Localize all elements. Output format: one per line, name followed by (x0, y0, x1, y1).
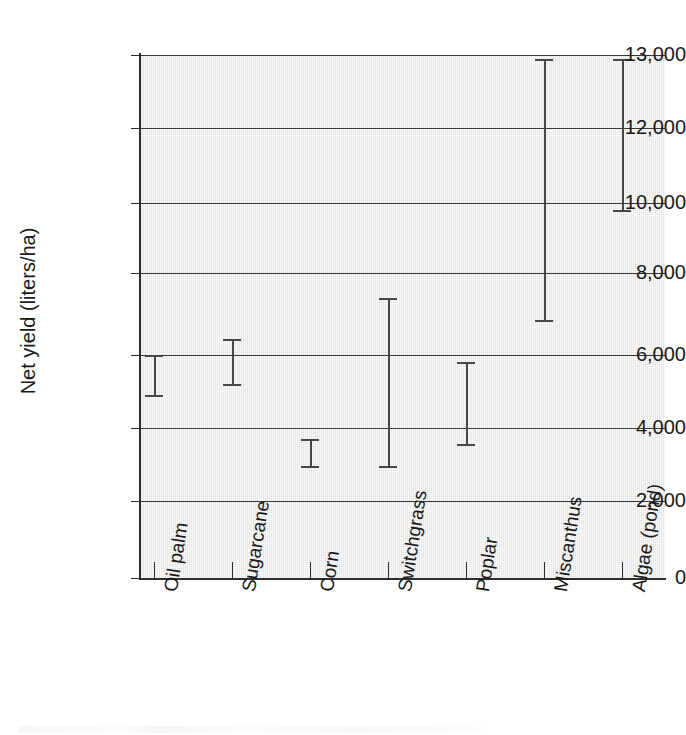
errorbar-cap-low-sugarcane (223, 384, 241, 386)
errorbar-cap-high-corn (301, 439, 319, 441)
y-tick-label-12000: 12,000 (608, 117, 686, 137)
errorbar-stem-switchgrass (388, 298, 390, 467)
errorbar-cap-high-oil-palm (145, 355, 163, 357)
errorbar-cap-high-switchgrass (379, 298, 397, 300)
errorbar-stem-corn (310, 439, 312, 466)
y-tick-6000 (131, 355, 140, 356)
y-tick-label-8000: 8,000 (608, 262, 686, 282)
errorbar-cap-low-miscanthus (535, 320, 553, 322)
y-tick-4000 (131, 428, 140, 429)
y-tick-label-4000: 4,000 (608, 417, 686, 437)
errorbar-cap-low-corn (301, 466, 319, 468)
x-tick-6 (622, 562, 623, 578)
chart-figure: 02,0004,0006,0008,00010,00012,00013,000 … (0, 0, 686, 735)
y-tick-12000 (131, 128, 140, 129)
x-tick-1 (232, 562, 233, 578)
scan-artifact (18, 726, 488, 733)
errorbar-stem-poplar (466, 362, 468, 444)
y-tick-0 (131, 578, 140, 579)
errorbar-cap-low-poplar (457, 444, 475, 446)
errorbar-cap-high-sugarcane (223, 339, 241, 341)
errorbar-cap-high-miscanthus (535, 59, 553, 61)
x-tick-3 (388, 562, 389, 578)
y-axis-title: Net yield (liters/ha) (17, 161, 39, 461)
errorbar-cap-low-oil-palm (145, 395, 163, 397)
errorbar-cap-low-switchgrass (379, 466, 397, 468)
errorbar-stem-sugarcane (232, 339, 234, 385)
gridline-4000 (140, 428, 665, 429)
x-tick-4 (466, 562, 467, 578)
category-label-corn: Corn (317, 549, 342, 593)
gridline-12000 (140, 128, 665, 129)
gridline-6000 (140, 355, 665, 356)
y-tick-label-10000: 10,000 (608, 192, 686, 212)
y-tick-10000 (131, 203, 140, 204)
y-tick-8000 (131, 273, 140, 274)
errorbar-stem-oil-palm (154, 355, 156, 395)
paper-texture (140, 55, 665, 578)
y-tick-label-13000: 13,000 (608, 44, 686, 64)
gridline-13000 (140, 55, 665, 56)
y-tick-2000 (131, 501, 140, 502)
errorbar-stem-miscanthus (544, 59, 546, 321)
x-tick-0 (154, 562, 155, 578)
gridline-8000 (140, 273, 665, 274)
gridline-2000 (140, 501, 665, 502)
x-tick-2 (310, 562, 311, 578)
errorbar-cap-high-poplar (457, 362, 475, 364)
x-tick-5 (544, 562, 545, 578)
plot-area (140, 55, 665, 578)
y-tick-label-6000: 6,000 (608, 344, 686, 364)
gridline-10000 (140, 203, 665, 204)
y-tick-13000 (131, 55, 140, 56)
